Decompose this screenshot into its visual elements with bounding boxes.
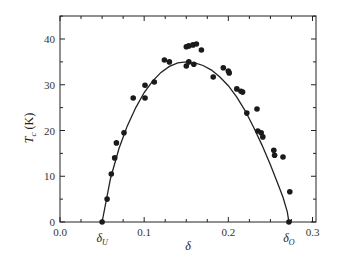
y-tick-label: 10 xyxy=(44,170,56,182)
data-point xyxy=(260,134,266,140)
data-point xyxy=(104,196,110,202)
svg-text:Tc (K): Tc (K) xyxy=(22,113,38,143)
x-tick-label: 0.0 xyxy=(53,226,67,238)
annotations: δUδO xyxy=(96,231,294,247)
data-point xyxy=(152,79,158,85)
y-tick-label: 20 xyxy=(44,125,56,137)
data-point xyxy=(186,59,192,65)
data-point xyxy=(286,219,292,225)
y-tick-labels: 010203040 xyxy=(44,33,56,228)
delta-u-label: δU xyxy=(96,231,109,247)
x-tick-label: 0.2 xyxy=(221,226,235,238)
data-point xyxy=(109,171,115,177)
data-point xyxy=(142,95,148,101)
y-axis-label: Tc (K) xyxy=(22,113,38,143)
delta-o-label: δO xyxy=(283,231,295,247)
x-tick-labels: 0.00.10.20.3 xyxy=(53,226,320,238)
data-point xyxy=(240,89,246,95)
data-point xyxy=(167,59,173,65)
data-point xyxy=(244,110,250,116)
y-axis-label-unit: (K) xyxy=(22,113,36,133)
data-point xyxy=(130,95,136,101)
data-point xyxy=(199,47,205,53)
tc-vs-delta-chart: 0.00.10.20.3 010203040 δUδO δ Tc (K) xyxy=(0,0,338,268)
y-tick-label: 40 xyxy=(44,33,56,45)
data-point xyxy=(271,147,277,153)
data-point xyxy=(280,154,286,160)
data-point xyxy=(162,57,168,63)
data-point xyxy=(112,155,118,161)
x-tick-label: 0.3 xyxy=(306,226,320,238)
y-tick-label: 30 xyxy=(44,79,56,91)
data-point xyxy=(99,219,105,225)
data-point xyxy=(287,189,293,195)
fit-curve xyxy=(102,62,289,222)
data-point xyxy=(210,74,216,80)
data-point xyxy=(121,130,127,136)
data-point xyxy=(142,82,148,88)
x-axis-label: δ xyxy=(185,239,191,253)
y-tick-label: 0 xyxy=(50,216,56,228)
data-point xyxy=(272,152,278,158)
data-points xyxy=(99,41,292,225)
data-point xyxy=(114,140,120,146)
data-point xyxy=(221,65,227,71)
data-point xyxy=(194,41,200,47)
data-point xyxy=(191,61,197,67)
data-point xyxy=(226,70,232,76)
data-point xyxy=(254,106,260,112)
x-tick-label: 0.1 xyxy=(137,226,151,238)
